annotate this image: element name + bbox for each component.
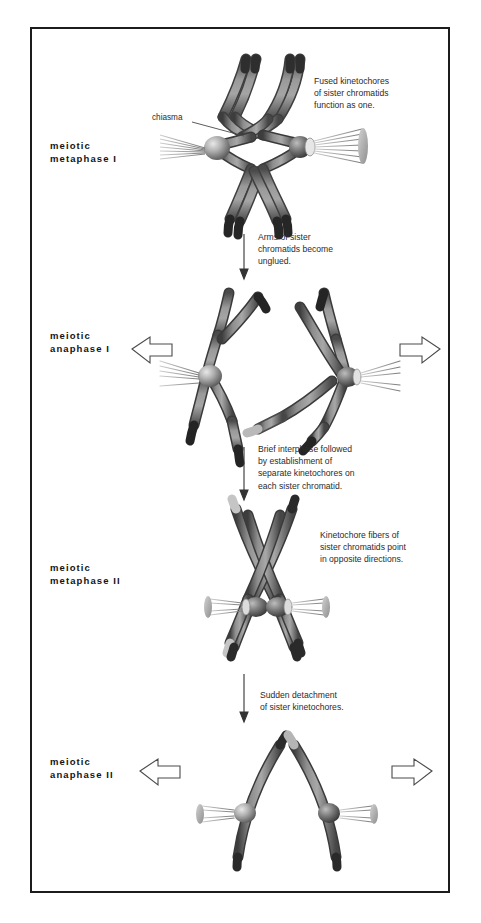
right-pull-arrow-anaphase1	[400, 337, 440, 363]
kinetochore-anaphase1-left	[198, 365, 222, 387]
kinetochore-right	[289, 136, 311, 158]
kinetochore-anaphase2-right	[318, 803, 340, 823]
kinetochore-anaphase2-left	[234, 803, 256, 823]
kinetochore-metaphase2-right	[266, 597, 290, 617]
transition-arrow-2	[240, 447, 248, 500]
kinetochore-anaphase1-right	[337, 367, 359, 387]
chiasma-callout-label: chiasma	[152, 112, 183, 123]
transition-arrow-3	[240, 674, 248, 722]
figure-frame: meiotic metaphase I meiotic anaphase I m…	[30, 27, 450, 893]
metaphase2-chromosomes	[204, 499, 330, 657]
stage-label-meiotic-anaphase-2: meiotic anaphase II	[50, 755, 114, 781]
callout-kinetochore-fibers: Kinetochore fibers of sister chromatids …	[320, 529, 450, 566]
transition-text-3: Sudden detachment of sister kinetochores…	[260, 689, 400, 713]
kinetochore-left	[204, 136, 230, 160]
transition-text-1: Arms of sister chromatids become unglued…	[258, 231, 378, 268]
kinetochore-fiber-right	[314, 129, 362, 163]
anaphase2-chromosomes	[196, 735, 378, 867]
callout-fused-kinetochores: Fused kinetochores of sister chromatids …	[314, 75, 440, 112]
stage-label-meiotic-metaphase-2: meiotic metaphase II	[50, 561, 121, 587]
transition-text-2: Brief interphase followed by establishme…	[258, 443, 408, 492]
kinetochore-fiber-left	[160, 135, 205, 159]
anaphase1-chromosomes	[160, 293, 400, 463]
stage-label-meiotic-metaphase-1: meiotic metaphase I	[50, 139, 117, 165]
transition-arrow-1	[240, 234, 248, 279]
left-pull-arrow-anaphase1	[132, 337, 172, 363]
left-pull-arrow-anaphase2	[140, 759, 180, 785]
chiasma-leader-line	[192, 122, 244, 136]
right-pull-arrow-anaphase2	[392, 759, 432, 785]
kinetochore-metaphase2-left	[244, 597, 268, 617]
stage-label-meiotic-anaphase-1: meiotic anaphase I	[50, 329, 110, 355]
